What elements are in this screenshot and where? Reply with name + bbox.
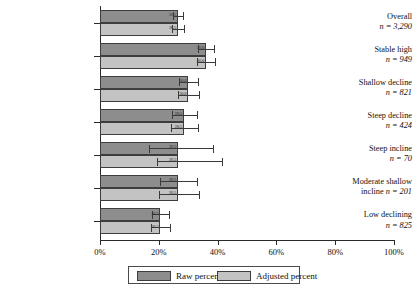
x-tick bbox=[100, 240, 101, 245]
bar-row: 20.5 bbox=[100, 208, 394, 221]
error-bar-cap bbox=[149, 145, 150, 153]
bar-value-label: 20.5 bbox=[151, 224, 158, 229]
bar-row: 28.5 bbox=[100, 109, 394, 122]
legend-item-raw: Raw percent bbox=[137, 270, 221, 281]
bar-value-label: 26.5 bbox=[169, 157, 176, 162]
error-bar-cap bbox=[214, 45, 215, 53]
bar-row: 20.5 bbox=[100, 221, 394, 234]
error-bar-cap bbox=[184, 25, 185, 33]
bar-raw bbox=[100, 76, 188, 89]
x-tick bbox=[335, 240, 336, 245]
x-tick bbox=[276, 240, 277, 245]
bar-value-label: 26.5 bbox=[169, 144, 176, 149]
bar-adjusted bbox=[100, 89, 188, 102]
chart-legend: Raw percent Adjusted percent bbox=[128, 266, 300, 284]
bar-group: 26.526.5 bbox=[100, 142, 394, 169]
error-bar-cap bbox=[222, 158, 223, 166]
error-bar-line bbox=[157, 161, 222, 162]
error-bar-cap bbox=[199, 91, 200, 99]
error-bar-cap bbox=[159, 191, 160, 199]
x-tick-label: 60% bbox=[256, 247, 296, 257]
bar-value-label: 26.5 bbox=[169, 25, 176, 30]
bar-row: 30.0 bbox=[100, 89, 394, 102]
bar-row: 26.5 bbox=[100, 175, 394, 188]
bar-value-label: 26.5 bbox=[169, 177, 176, 182]
error-bar-cap bbox=[198, 124, 199, 132]
error-bar-cap bbox=[198, 78, 199, 86]
bar-raw bbox=[100, 10, 178, 23]
x-tick bbox=[218, 240, 219, 245]
error-bar-cap bbox=[197, 111, 198, 119]
bar-row: 26.5 bbox=[100, 155, 394, 168]
bar-adjusted bbox=[100, 56, 206, 69]
bar-group: 26.526.5 bbox=[100, 10, 394, 37]
x-tick-label: 0% bbox=[80, 247, 120, 257]
bar-row: 26.5 bbox=[100, 10, 394, 23]
legend-swatch-adjusted bbox=[217, 271, 251, 281]
bar-value-label: 26.5 bbox=[169, 190, 176, 195]
bar-row: 28.5 bbox=[100, 122, 394, 135]
x-tick-label: 20% bbox=[139, 247, 179, 257]
bar-row: 26.5 bbox=[100, 142, 394, 155]
legend-label-adjusted: Adjusted percent bbox=[256, 271, 317, 281]
bar-row: 26.5 bbox=[100, 23, 394, 36]
bar-value-label: 36.0 bbox=[197, 45, 204, 50]
legend-label-raw: Raw percent bbox=[176, 271, 221, 281]
x-axis-line bbox=[100, 240, 395, 241]
legend-item-adjusted: Adjusted percent bbox=[217, 270, 317, 281]
error-bar-cap bbox=[172, 111, 173, 119]
error-bar-line bbox=[149, 148, 214, 149]
error-bar-cap bbox=[215, 58, 216, 66]
bar-raw bbox=[100, 43, 206, 56]
bar-value-label: 30.0 bbox=[179, 91, 186, 96]
error-bar-line bbox=[159, 194, 200, 195]
bar-value-label: 20.5 bbox=[151, 211, 158, 216]
error-bar-cap bbox=[171, 124, 172, 132]
error-bar-cap bbox=[157, 158, 158, 166]
error-bar-cap bbox=[170, 224, 171, 232]
error-bar-cap bbox=[199, 191, 200, 199]
error-bar-cap bbox=[160, 178, 161, 186]
error-bar-cap bbox=[213, 145, 214, 153]
bar-row: 30.0 bbox=[100, 76, 394, 89]
error-bar-line bbox=[160, 181, 197, 182]
bar-group: 20.520.5 bbox=[100, 208, 394, 235]
bar-value-label: 28.5 bbox=[175, 124, 182, 129]
bar-adjusted bbox=[100, 23, 178, 36]
x-tick bbox=[394, 240, 395, 245]
bar-group: 26.526.5 bbox=[100, 175, 394, 202]
bar-row: 36.0 bbox=[100, 43, 394, 56]
x-tick-label: 40% bbox=[198, 247, 238, 257]
bar-value-label: 28.5 bbox=[175, 111, 182, 116]
bar-value-label: 36.0 bbox=[197, 58, 204, 63]
bar-value-label: 26.5 bbox=[169, 12, 176, 17]
bar-group: 36.036.0 bbox=[100, 43, 394, 70]
bar-row: 26.5 bbox=[100, 188, 394, 201]
error-bar-cap bbox=[169, 211, 170, 219]
bar-value-label: 30.0 bbox=[179, 78, 186, 83]
bar-group: 30.030.0 bbox=[100, 76, 394, 103]
legend-swatch-raw bbox=[137, 271, 171, 281]
x-tick-label: 80% bbox=[315, 247, 355, 257]
bar-row: 36.0 bbox=[100, 56, 394, 69]
x-tick-label: 100% bbox=[374, 247, 414, 257]
plot-area: 26.526.536.036.030.030.028.528.526.526.5… bbox=[100, 6, 394, 238]
bar-group: 28.528.5 bbox=[100, 109, 394, 136]
error-bar-cap bbox=[183, 12, 184, 20]
x-tick bbox=[159, 240, 160, 245]
error-bar-cap bbox=[197, 178, 198, 186]
